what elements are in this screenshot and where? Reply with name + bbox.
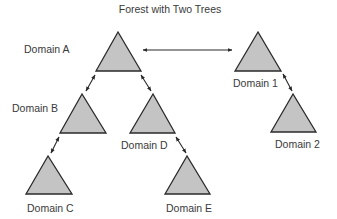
trust-arrow-1-2	[283, 74, 292, 91]
domain-1-label: Domain 1	[233, 77, 278, 89]
domain-d-triangle-icon	[130, 94, 175, 133]
domain-c-triangle-icon	[26, 156, 72, 194]
domain-b-label: Domain B	[12, 102, 58, 114]
domain-c-label: Domain C	[27, 202, 74, 214]
domain-2-label: Domain 2	[275, 138, 320, 150]
domain-a-label: Domain A	[24, 43, 70, 55]
domain-c-node: Domain C	[26, 156, 74, 214]
domain-d-label: Domain D	[121, 139, 168, 151]
trust-arrow-b-c	[51, 137, 59, 153]
domain-b-node: Domain B	[12, 94, 106, 133]
domain-a-triangle-icon	[96, 32, 141, 71]
domain-a-node: Domain A	[24, 32, 141, 71]
domain-e-label: Domain E	[166, 202, 212, 214]
forest-diagram: Forest with Two Trees Domain A Domain B …	[0, 0, 337, 219]
domain-2-node: Domain 2	[271, 94, 320, 150]
diagram-title: Forest with Two Trees	[119, 3, 222, 15]
trust-arrow-a-b	[86, 75, 95, 91]
domain-2-triangle-icon	[271, 94, 316, 132]
domain-e-node: Domain E	[165, 156, 212, 214]
domain-1-node: Domain 1	[233, 32, 281, 89]
domain-b-triangle-icon	[60, 94, 106, 133]
domain-e-triangle-icon	[165, 156, 210, 194]
domain-d-node: Domain D	[121, 94, 175, 151]
domain-1-triangle-icon	[235, 32, 281, 71]
trust-arrow-d-e	[176, 137, 186, 153]
trust-arrow-a-d	[141, 75, 151, 91]
